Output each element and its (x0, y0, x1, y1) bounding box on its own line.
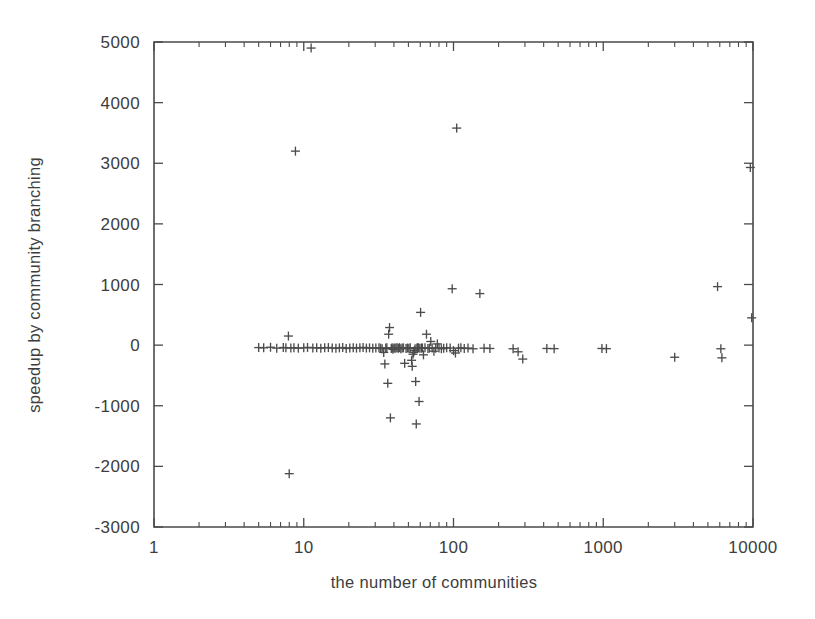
x-axis-tick-labels: 110100100010000 (149, 538, 778, 557)
data-point (485, 344, 494, 353)
data-point (550, 344, 559, 353)
y-axis-title: speedup by community branching (25, 157, 43, 413)
plot-canvas: -3000-2000-1000010002000300040005000 110… (0, 0, 815, 619)
data-point (448, 284, 457, 293)
data-point (602, 344, 611, 353)
data-point (716, 344, 725, 353)
x-axis-ticks (154, 42, 753, 527)
data-point (475, 289, 484, 298)
y-tick-label: 3000 (101, 154, 140, 173)
y-tick-label: 0 (130, 336, 140, 355)
y-tick-label: 5000 (101, 33, 140, 52)
data-point (415, 397, 424, 406)
data-point (518, 355, 527, 364)
x-tick-label: 1 (149, 538, 159, 557)
y-tick-label: 1000 (101, 276, 140, 295)
data-point (422, 330, 431, 339)
y-tick-label: 4000 (101, 94, 140, 113)
data-point (670, 353, 679, 362)
y-tick-label: -2000 (95, 457, 140, 476)
data-point (469, 344, 478, 353)
data-point (713, 282, 722, 291)
data-point (307, 44, 316, 53)
data-point-markers (254, 44, 756, 479)
y-axis-tick-labels: -3000-2000-1000010002000300040005000 (95, 33, 140, 537)
data-point (384, 330, 393, 339)
data-point (266, 343, 275, 352)
data-point (416, 308, 425, 317)
data-point (383, 379, 392, 388)
x-tick-label: 1000 (584, 538, 623, 557)
data-point (411, 377, 420, 386)
data-point (291, 147, 300, 156)
y-tick-label: 2000 (101, 215, 140, 234)
x-axis-title: the number of communities (331, 573, 538, 591)
data-point (386, 413, 395, 422)
data-point (747, 313, 756, 322)
scatter-plot-figure: -3000-2000-1000010002000300040005000 110… (0, 0, 815, 619)
data-point (452, 124, 461, 133)
x-tick-label: 10 (294, 538, 314, 557)
data-point (717, 353, 726, 362)
data-point (412, 419, 421, 428)
y-tick-label: -3000 (95, 518, 140, 537)
data-point (385, 323, 394, 332)
x-tick-label: 100 (439, 538, 469, 557)
x-tick-label: 10000 (728, 538, 777, 557)
data-point (380, 359, 389, 368)
plot-frame (154, 42, 753, 527)
data-point (285, 469, 294, 478)
data-point (284, 332, 293, 341)
y-axis-ticks (154, 42, 753, 527)
y-tick-label: -1000 (95, 397, 140, 416)
